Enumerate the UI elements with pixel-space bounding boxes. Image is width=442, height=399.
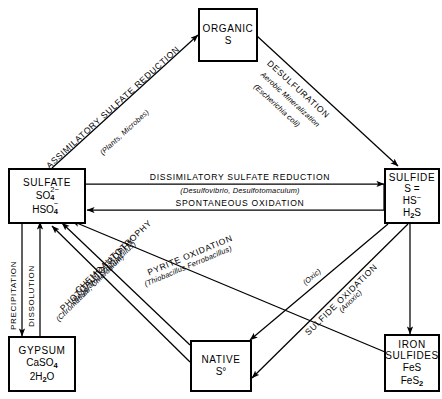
node-gypsum[interactable]: GYPSUM CaSO4 2H2O xyxy=(8,336,76,392)
node-sulfate-title: SULFATE xyxy=(23,177,71,188)
edge-label-dissimilatory-organisms: (Desulfovibrio, Desulfotomaculum) xyxy=(95,186,385,195)
node-sulfate-formula-bisulfate-ion: HSO−4 xyxy=(32,203,62,216)
node-gypsum-formula-calcium-sulfate: CaSO4 xyxy=(26,357,57,370)
node-iron-sulfides-formula-fes: FeS xyxy=(403,362,421,374)
edge-label-precipitation: PRECIPITATION xyxy=(9,261,18,330)
node-native-title: NATIVE xyxy=(202,354,241,365)
node-gypsum-title: GYPSUM xyxy=(19,345,66,356)
node-organic-formula: S xyxy=(225,35,232,47)
node-iron-sulfides-title-line2: SULFIDES xyxy=(385,350,439,361)
node-sulfate[interactable]: SULFATE SO2−4 HSO−4 xyxy=(8,168,86,224)
edge-label-dissimilatory-organisms-group: (Desulfovibrio, Desulfotomaculum) xyxy=(95,186,385,195)
edge-label-dissimilatory-group: DISSIMILATORY SULFATE REDUCTION xyxy=(95,172,385,182)
node-sulfide-formula-bisulfide-ion: HS− xyxy=(403,196,421,208)
sulfur-cycle-diagram: ORGANIC S SULFATE SO2−4 HSO−4 SULFIDE S … xyxy=(0,0,442,399)
edge-label-dissimilatory: DISSIMILATORY SULFATE REDUCTION xyxy=(95,172,385,182)
edge-label-dissolution: DISSOLUTION xyxy=(27,265,36,327)
node-gypsum-formula-water: 2H2O xyxy=(30,371,55,384)
edge-label-spontaneous: SPONTANEOUS OXIDATION xyxy=(95,198,385,208)
node-iron-sulfides-formula-fes2: FeS2 xyxy=(401,375,424,388)
node-organic-title: ORGANIC xyxy=(203,23,254,34)
node-sulfide[interactable]: SULFIDE S = HS− H2S xyxy=(384,168,440,224)
node-iron-sulfides[interactable]: IRON SULFIDES FeS FeS2 xyxy=(384,334,440,392)
edge-label-spontaneous-group: SPONTANEOUS OXIDATION xyxy=(95,198,385,208)
node-organic[interactable]: ORGANIC S xyxy=(198,8,258,62)
node-sulfide-formula-hydrogen-sulfide: H2S xyxy=(403,208,421,220)
node-sulfide-title: SULFIDE xyxy=(389,172,435,183)
node-native-formula: S° xyxy=(216,366,227,378)
node-iron-sulfides-title-line1: IRON xyxy=(398,339,425,350)
node-native-sulfur[interactable]: NATIVE S° xyxy=(190,340,252,392)
